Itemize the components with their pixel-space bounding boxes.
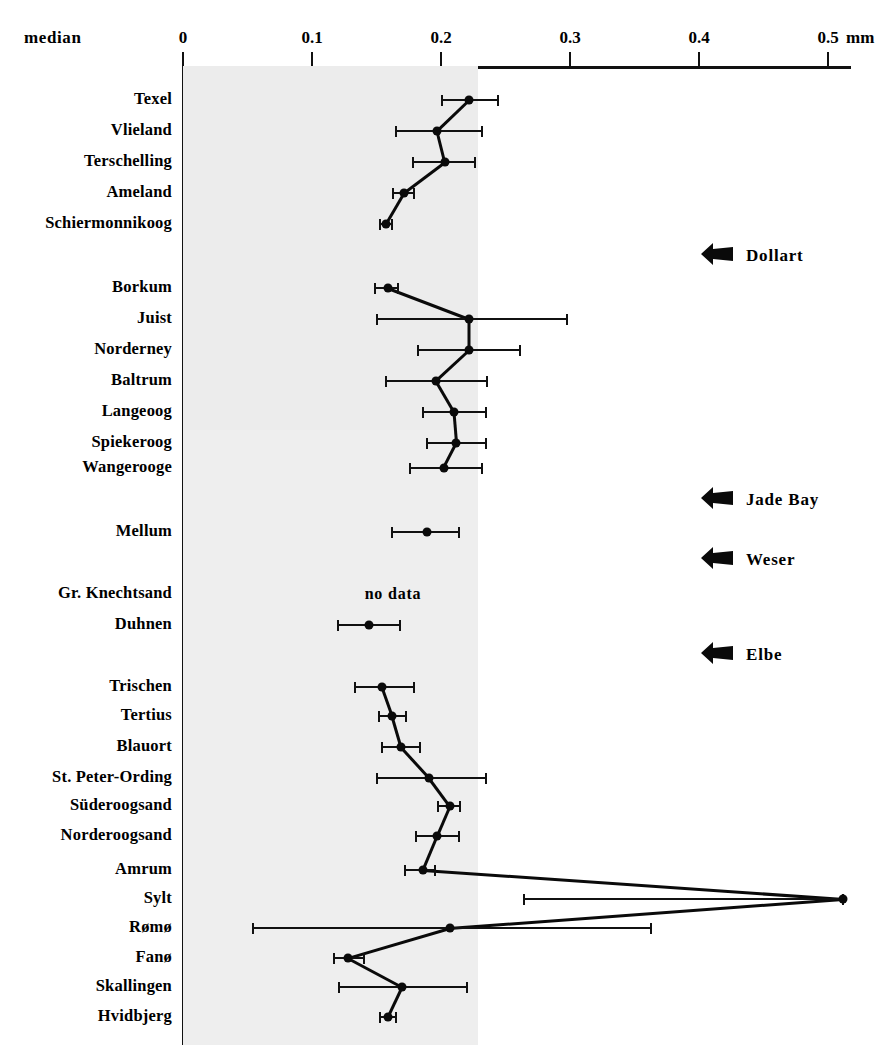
data-point-mellum <box>422 528 431 537</box>
data-point-juist <box>465 315 474 324</box>
data-point-amrum <box>418 866 427 875</box>
error-cap-low-15 <box>354 682 356 693</box>
row-label-mellum: Mellum <box>116 521 172 541</box>
x-tick-label-5: 0.5 <box>817 28 838 48</box>
data-point-sylt <box>839 895 848 904</box>
row-label-skallingen: Skallingen <box>96 976 172 996</box>
annotation-label: Jade Bay <box>746 490 819 510</box>
error-cap-low-21 <box>404 865 406 876</box>
annotation-label: Weser <box>746 550 795 570</box>
row-label-spiekeroog: Spiekeroog <box>91 432 172 452</box>
error-cap-low-20 <box>415 831 417 842</box>
error-cap-high-4 <box>391 219 393 230</box>
error-cap-high-18 <box>485 773 487 784</box>
x-axis-tick-5 <box>827 52 829 67</box>
data-point-spiekeroog <box>452 439 461 448</box>
x-axis-unit-label: mm <box>846 28 874 48</box>
x-axis-tick-1 <box>311 52 313 67</box>
error-cap-high-7 <box>519 345 521 356</box>
row-label-terschelling: Terschelling <box>84 151 172 171</box>
chart-canvas: median 00.10.20.30.40.5 mm no data Texel… <box>0 0 884 1045</box>
error-cap-high-21 <box>434 865 436 876</box>
shaded-region-1 <box>183 430 478 1045</box>
error-cap-low-23 <box>252 923 254 934</box>
annotation-dollart: Dollart <box>700 241 804 271</box>
annotation-elbe: Elbe <box>700 640 782 670</box>
x-axis-tick-0 <box>182 52 184 67</box>
row-label-norderney: Norderney <box>94 339 172 359</box>
row-label-sylt: Sylt <box>144 888 172 908</box>
data-point-baltrum <box>431 377 440 386</box>
error-cap-high-10 <box>485 438 487 449</box>
row-label-st-peter-ording: St. Peter-Ording <box>52 767 172 787</box>
error-cap-high-2 <box>474 157 476 168</box>
x-axis-tick-2 <box>440 52 442 67</box>
error-cap-low-24 <box>333 953 335 964</box>
left-arrow-icon <box>700 485 734 515</box>
error-cap-high-19 <box>459 801 461 812</box>
error-cap-high-25 <box>466 982 468 993</box>
error-cap-low-8 <box>385 376 387 387</box>
error-cap-high-14 <box>399 620 401 631</box>
data-point-vlieland <box>433 127 442 136</box>
row-label-amrum: Amrum <box>115 859 172 879</box>
row-label-trischen: Trischen <box>109 676 172 696</box>
error-cap-high-1 <box>481 126 483 137</box>
row-label-hvidbjerg: Hvidbjerg <box>98 1006 172 1026</box>
error-cap-low-9 <box>422 407 424 418</box>
error-cap-high-26 <box>395 1012 397 1023</box>
error-bar-22 <box>524 898 844 900</box>
error-cap-low-2 <box>412 157 414 168</box>
data-point-blauort <box>397 743 406 752</box>
data-point-norderney <box>465 346 474 355</box>
error-cap-high-3 <box>413 188 415 199</box>
error-cap-high-6 <box>566 314 568 325</box>
error-cap-low-12 <box>391 527 393 538</box>
error-cap-low-11 <box>409 463 411 474</box>
row-label-ameland: Ameland <box>106 182 172 202</box>
x-tick-label-1: 0.1 <box>301 28 322 48</box>
annotation-jade-bay: Jade Bay <box>700 485 819 515</box>
error-cap-low-14 <box>337 620 339 631</box>
error-cap-low-25 <box>338 982 340 993</box>
row-label-blauort: Blauort <box>117 736 172 756</box>
row-label-juist: Juist <box>137 308 172 328</box>
error-cap-high-17 <box>419 742 421 753</box>
error-cap-low-26 <box>379 1012 381 1023</box>
error-cap-low-1 <box>395 126 397 137</box>
annotation-label: Elbe <box>746 645 782 665</box>
data-point-ameland <box>399 189 408 198</box>
error-cap-low-16 <box>378 711 380 722</box>
no-data-note: no data <box>365 585 422 603</box>
data-point-borkum <box>384 284 393 293</box>
error-cap-high-9 <box>485 407 487 418</box>
error-cap-low-17 <box>381 742 383 753</box>
error-cap-high-20 <box>458 831 460 842</box>
data-point-tertius <box>387 712 396 721</box>
data-point-skallingen <box>398 983 407 992</box>
row-label-wangerooge: Wangerooge <box>82 457 172 477</box>
data-point-fan- <box>344 954 353 963</box>
error-cap-high-16 <box>405 711 407 722</box>
error-cap-low-19 <box>437 801 439 812</box>
data-point-r-m- <box>446 924 455 933</box>
connector-segment-21 <box>423 869 844 901</box>
x-tick-label-2: 0.2 <box>430 28 451 48</box>
category-label-column: TexelVlielandTerschellingAmelandSchiermo… <box>0 0 172 1045</box>
error-cap-high-24 <box>363 953 365 964</box>
row-label-fan-: Fanø <box>135 947 172 967</box>
error-cap-high-23 <box>650 923 652 934</box>
error-cap-low-10 <box>426 438 428 449</box>
data-point-duhnen <box>364 621 373 630</box>
data-point-trischen <box>377 683 386 692</box>
error-cap-low-5 <box>374 283 376 294</box>
error-cap-low-6 <box>376 314 378 325</box>
row-label-tertius: Tertius <box>121 705 172 725</box>
connector-segment-22 <box>450 898 844 930</box>
row-label-norderoogsand: Norderoogsand <box>61 825 172 845</box>
error-cap-high-12 <box>458 527 460 538</box>
error-cap-low-3 <box>392 188 394 199</box>
data-point-hvidbjerg <box>384 1013 393 1022</box>
annotation-weser: Weser <box>700 545 795 575</box>
left-arrow-icon <box>700 241 734 271</box>
